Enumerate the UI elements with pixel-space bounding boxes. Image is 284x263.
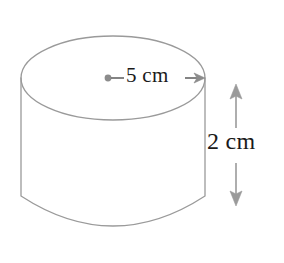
height-label: 2 cm [207, 129, 256, 153]
center-dot-icon [105, 75, 112, 82]
cylinder-diagram-figure: 5 cm 2 cm [0, 0, 284, 263]
radius-label: 5 cm [126, 65, 169, 86]
cylinder-body-outline [21, 78, 205, 226]
